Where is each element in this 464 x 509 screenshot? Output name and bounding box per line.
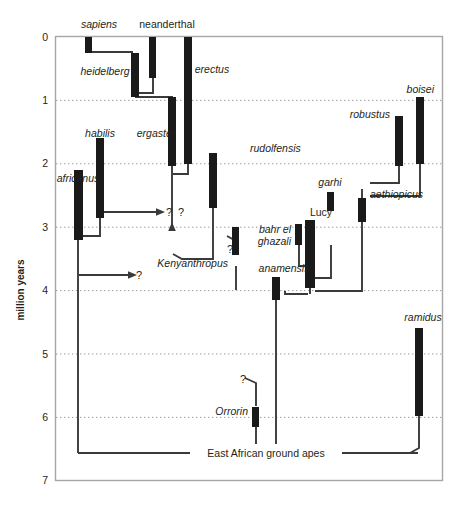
phylogeny-figure: 0 1 2 3 4 5 6 7 million years: [0, 0, 464, 509]
tick-label-0: 0: [42, 31, 48, 43]
qmark-deep-arrow: ?: [136, 269, 142, 281]
tick-label-2: 2: [42, 157, 48, 169]
qmark-africanus-arrow: ?: [166, 206, 172, 218]
y-axis-ticks: 0 1 2 3 4 5 6 7: [42, 31, 48, 487]
root-label: East African ground apes: [207, 447, 324, 459]
label-neanderthal: neanderthal: [139, 18, 194, 30]
bar-aethiopicus[interactable]: [358, 198, 366, 222]
label-robustus: robustus: [350, 108, 391, 120]
bar-orrorin[interactable]: [252, 407, 259, 427]
tick-label-5: 5: [42, 348, 48, 360]
plot-frame: [56, 37, 443, 481]
label-ramidus: ramidus: [404, 311, 442, 323]
label-sapiens: sapiens: [81, 18, 118, 30]
bar-bahr-el-ghazali[interactable]: [295, 224, 302, 245]
label-lucy: Lucy: [310, 206, 333, 218]
bar-erectus[interactable]: [184, 37, 192, 164]
tick-label-7: 7: [42, 474, 48, 486]
bar-robustus[interactable]: [395, 116, 403, 166]
bar-neanderthal[interactable]: [149, 37, 156, 78]
label-boisei: boisei: [407, 83, 435, 95]
qmark-ergaster-stem: ?: [178, 206, 184, 218]
label-orrorin: Orrorin: [215, 405, 248, 417]
label-anamensis: anamensis: [259, 262, 311, 274]
bar-sapiens[interactable]: [85, 37, 92, 53]
bar-rudolfensis[interactable]: [209, 153, 217, 208]
qmark-kenyanthropus: ?: [227, 243, 233, 255]
tick-label-3: 3: [42, 221, 48, 233]
label-rudolfensis: rudolfensis: [250, 142, 302, 154]
label-heidelberg: heidelberg: [80, 65, 129, 77]
qmark-orrorin: ?: [240, 373, 246, 385]
label-africanus: africanus: [57, 172, 100, 184]
bar-heidelberg[interactable]: [131, 53, 139, 97]
label-ghazali: ghazali: [258, 235, 292, 247]
tick-label-1: 1: [42, 94, 48, 106]
tick-label-4: 4: [42, 284, 48, 296]
label-erectus: erectus: [195, 63, 230, 75]
bar-anamensis[interactable]: [272, 277, 280, 300]
label-bahr-el: bahr el: [259, 223, 292, 235]
bar-ramidus[interactable]: [415, 328, 423, 416]
label-kenyanthropus: Kenyanthropus: [157, 257, 228, 269]
label-garhi: garhi: [318, 176, 342, 188]
label-habilis: habilis: [85, 127, 116, 139]
bar-boisei[interactable]: [416, 97, 424, 164]
label-aethiopicus: aethiopicus: [370, 188, 424, 200]
tick-label-6: 6: [42, 411, 48, 423]
y-axis-title: million years: [15, 259, 26, 321]
bar-lucy[interactable]: [305, 220, 315, 288]
label-ergaster: ergaster: [137, 127, 176, 139]
